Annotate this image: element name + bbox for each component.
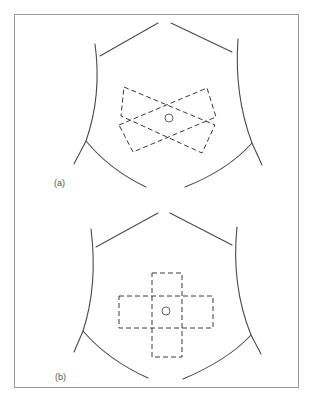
navel-icon-a (165, 114, 173, 122)
pad-ascending (119, 88, 216, 152)
abdomen-diagram (0, 0, 312, 400)
right-flank-b (236, 227, 261, 354)
pad-descending (121, 87, 215, 153)
panel-label-b: (b) (55, 372, 66, 382)
left-rib-line-b (96, 213, 158, 247)
torso-outline-a (74, 23, 262, 187)
left-flank-b (74, 229, 93, 352)
navel-icon-b (162, 307, 170, 315)
left-flank-a (74, 44, 97, 164)
right-rib-line-a (171, 23, 232, 52)
right-groin-line-b (183, 335, 251, 379)
left-groin-line-b (83, 331, 148, 378)
panel-label-a: (a) (54, 178, 65, 188)
pad-horizontal (119, 296, 213, 328)
pads-a (119, 87, 216, 153)
right-rib-line-b (170, 213, 232, 245)
left-groin-line-a (86, 141, 146, 187)
left-rib-line-a (100, 23, 158, 56)
